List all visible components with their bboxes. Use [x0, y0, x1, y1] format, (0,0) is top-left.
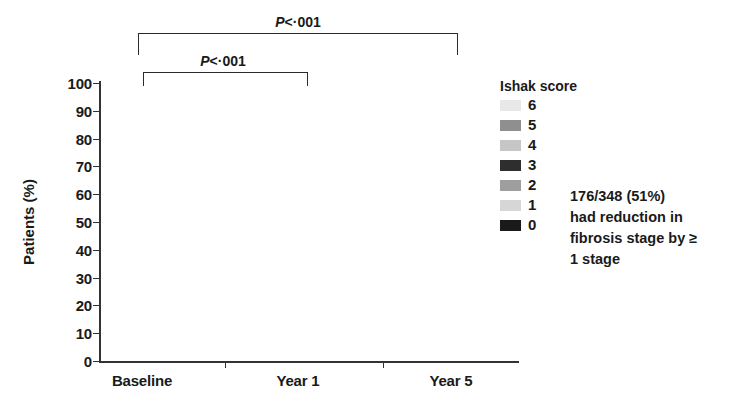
y-tick-50 — [93, 222, 100, 223]
y-tick-label-100: 100 — [50, 75, 92, 92]
y-axis-title: Patients (%) — [20, 179, 37, 265]
legend-swatch-4 — [500, 140, 521, 151]
summary-annotation: 176/348 (51%) had reduction in fibrosis … — [570, 186, 730, 270]
x-tick-baseline-year1-divider — [225, 361, 226, 368]
legend-label-4: 4 — [528, 136, 536, 153]
legend-swatch-3 — [500, 160, 521, 171]
pvalue-label-baseline-year1: P<·001 — [163, 53, 283, 69]
x-axis-label-baseline: Baseline — [104, 372, 180, 389]
y-tick-label-50: 50 — [50, 214, 92, 231]
summary-annotation-line-1: 176/348 (51%) — [570, 186, 730, 207]
y-tick-label-20: 20 — [50, 297, 92, 314]
y-tick-label-80: 80 — [50, 131, 92, 148]
y-tick-label-90: 90 — [50, 103, 92, 120]
x-axis-line — [99, 361, 519, 363]
summary-annotation-line-2: had reduction in — [570, 207, 730, 228]
y-tick-40 — [93, 250, 100, 251]
pvalue-value-outer: <·001 — [285, 14, 321, 30]
legend-swatch-0 — [500, 220, 521, 231]
y-tick-label-0: 0 — [50, 353, 92, 370]
pvalue-value-inner: <·001 — [210, 53, 246, 69]
y-tick-label-10: 10 — [50, 325, 92, 342]
y-tick-70 — [93, 166, 100, 167]
figure-root: P<·001 P<·001 Patients (%) 100 90 80 70 … — [0, 0, 732, 411]
y-tick-60 — [93, 194, 100, 195]
y-tick-80 — [93, 139, 100, 140]
legend-title: Ishak score — [500, 78, 577, 94]
y-tick-label-60: 60 — [50, 186, 92, 203]
legend-label-5: 5 — [528, 116, 536, 133]
legend-label-0: 0 — [528, 216, 536, 233]
y-tick-label-70: 70 — [50, 158, 92, 175]
legend-label-2: 2 — [528, 176, 536, 193]
legend-swatch-6 — [500, 100, 521, 111]
y-tick-label-30: 30 — [50, 270, 92, 287]
significance-bracket-baseline-year5 — [138, 33, 458, 55]
legend-label-1: 1 — [528, 196, 536, 213]
y-tick-20 — [93, 305, 100, 306]
legend-swatch-1 — [500, 200, 521, 211]
plot-area — [100, 83, 500, 361]
y-tick-30 — [93, 278, 100, 279]
pvalue-p-symbol-outer: P — [275, 14, 284, 30]
legend-swatch-2 — [500, 180, 521, 191]
pvalue-p-symbol-inner: P — [200, 53, 209, 69]
legend-label-3: 3 — [528, 156, 536, 173]
y-tick-100 — [93, 83, 100, 84]
legend-swatch-5 — [500, 120, 521, 131]
y-tick-label-40: 40 — [50, 242, 92, 259]
y-tick-90 — [93, 111, 100, 112]
legend-label-6: 6 — [528, 96, 536, 113]
y-tick-10 — [93, 333, 100, 334]
summary-annotation-line-3: fibrosis stage by ≥ — [570, 228, 730, 249]
x-axis-label-year-1: Year 1 — [260, 372, 336, 389]
x-tick-year1-year5-divider — [383, 361, 384, 368]
summary-annotation-line-4: 1 stage — [570, 249, 730, 270]
pvalue-label-baseline-year5: P<·001 — [238, 14, 358, 30]
x-axis-label-year-5: Year 5 — [413, 372, 489, 389]
